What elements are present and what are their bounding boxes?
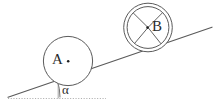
physics-diagram-figure: A B α <box>0 0 217 105</box>
body-a-group <box>43 36 92 85</box>
body-a-center-dot <box>67 60 70 63</box>
body-b-group <box>124 3 173 52</box>
incline-surface-line <box>8 27 212 97</box>
diagram-canvas <box>0 0 217 105</box>
body-b-center-dot <box>146 26 149 29</box>
body-b-label: B <box>152 19 162 34</box>
angle-label: α <box>62 83 69 96</box>
body-a-label: A <box>52 52 63 67</box>
